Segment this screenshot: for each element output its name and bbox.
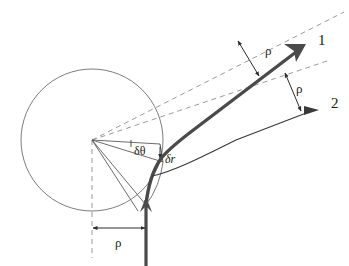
ray-1-label: 1	[318, 32, 326, 48]
figure-container: 1 2 ρ ρ ρ δθ δr	[0, 0, 349, 266]
rho-lower-label: ρ	[296, 81, 303, 96]
outgoing-ray-2-arrowhead	[304, 106, 319, 115]
construction-line-upper-dashed	[92, 12, 344, 140]
diagram-canvas: 1 2 ρ ρ ρ δθ δr	[0, 0, 349, 266]
rho-upper-measure-arrow	[238, 41, 259, 76]
delta-r-label: δr	[165, 152, 176, 166]
radius-line-entry-alt	[92, 140, 138, 211]
rho-bottom-label: ρ	[115, 235, 122, 250]
rho-upper-label: ρ	[265, 43, 272, 58]
construction-line-lower-dashed	[92, 60, 330, 140]
ray-2-label: 2	[331, 95, 339, 111]
delta-theta-label: δθ	[134, 144, 146, 158]
outgoing-ray-1	[146, 49, 300, 205]
